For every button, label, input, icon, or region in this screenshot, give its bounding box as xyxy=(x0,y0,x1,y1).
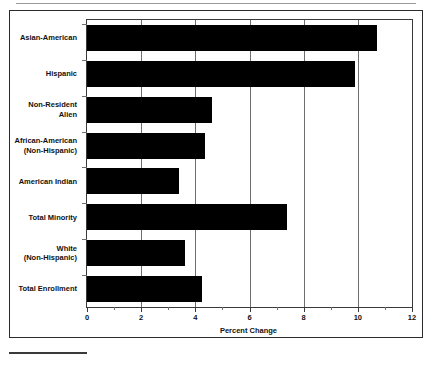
bar xyxy=(87,133,205,159)
category-label-text: Asian-American xyxy=(20,33,77,43)
y-axis-tick xyxy=(82,60,87,61)
y-axis-tick xyxy=(82,239,87,240)
category-label-text: White (Non-Hispanic) xyxy=(24,244,77,263)
chart-figure-frame: Asian-AmericanHispanicNon-Resident Alien… xyxy=(9,10,423,338)
bar xyxy=(87,25,377,51)
category-label: White (Non-Hispanic) xyxy=(0,240,77,266)
x-axis-minor-tick xyxy=(331,307,332,310)
bar-chart: Asian-AmericanHispanicNon-Resident Alien… xyxy=(10,11,424,339)
category-label: African-American (Non-Hispanic) xyxy=(0,133,77,159)
category-label-text: Non-Resident Alien xyxy=(28,100,77,119)
bar xyxy=(87,204,287,230)
bar-row: American Indian xyxy=(87,168,412,194)
bar xyxy=(87,168,179,194)
x-axis-minor-tick xyxy=(168,307,169,310)
x-axis-major-tick xyxy=(304,307,305,312)
y-axis-tick xyxy=(82,24,87,25)
category-label-text: Total Enrollment xyxy=(18,284,77,294)
y-axis-tick xyxy=(82,275,87,276)
x-axis-minor-tick xyxy=(114,307,115,310)
x-axis-tick-label: 8 xyxy=(302,313,306,322)
category-label-text: American Indian xyxy=(19,177,77,187)
bar xyxy=(87,240,185,266)
category-label: Total Minority xyxy=(0,204,77,230)
bar xyxy=(87,276,202,302)
category-label: Non-Resident Alien xyxy=(0,97,77,123)
top-divider xyxy=(16,3,416,4)
y-axis-tick xyxy=(82,203,87,204)
x-axis-tick-label: 2 xyxy=(139,313,143,322)
bar-row: African-American (Non-Hispanic) xyxy=(87,133,412,159)
bar-series: Asian-AmericanHispanicNon-Resident Alien… xyxy=(87,20,412,307)
x-axis-major-tick xyxy=(412,307,413,312)
bar-row: Non-Resident Alien xyxy=(87,97,412,123)
x-axis-major-tick xyxy=(195,307,196,312)
plot-area: Asian-AmericanHispanicNon-Resident Alien… xyxy=(86,19,413,308)
category-label: Hispanic xyxy=(0,61,77,87)
category-label-text: Hispanic xyxy=(46,69,77,79)
x-axis-minor-tick xyxy=(222,307,223,310)
bar xyxy=(87,61,355,87)
x-axis-title: Percent Change xyxy=(86,326,411,335)
y-axis-tick xyxy=(82,167,87,168)
category-label: Total Enrollment xyxy=(0,276,77,302)
bar-row: White (Non-Hispanic) xyxy=(87,240,412,266)
y-axis-tick xyxy=(82,132,87,133)
x-axis-minor-tick xyxy=(385,307,386,310)
x-axis-tick-label: 12 xyxy=(408,313,416,322)
bar-row: Hispanic xyxy=(87,61,412,87)
bar-row: Asian-American xyxy=(87,25,412,51)
x-axis-minor-tick xyxy=(277,307,278,310)
category-label-text: Total Minority xyxy=(28,213,77,223)
x-axis-major-tick xyxy=(250,307,251,312)
x-axis-major-tick xyxy=(141,307,142,312)
category-label-text: African-American (Non-Hispanic) xyxy=(14,136,77,155)
x-axis-tick-label: 10 xyxy=(354,313,362,322)
bar xyxy=(87,97,212,123)
footer-divider xyxy=(9,352,87,354)
x-axis-tick-label: 4 xyxy=(193,313,197,322)
x-axis-major-tick xyxy=(358,307,359,312)
category-label: American Indian xyxy=(0,168,77,194)
y-axis-tick xyxy=(82,96,87,97)
x-axis-tick-label: 6 xyxy=(247,313,251,322)
x-axis-tick-label: 0 xyxy=(85,313,89,322)
category-label: Asian-American xyxy=(0,25,77,51)
bar-row: Total Enrollment xyxy=(87,276,412,302)
bar-row: Total Minority xyxy=(87,204,412,230)
x-axis-major-tick xyxy=(87,307,88,312)
